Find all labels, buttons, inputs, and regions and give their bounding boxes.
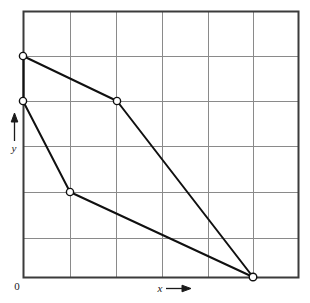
data-point-marker — [249, 273, 257, 281]
data-point-marker — [113, 97, 120, 104]
graph-figure: 0 y x — [0, 0, 310, 303]
data-point-marker — [19, 52, 26, 59]
y-axis-label: y — [11, 142, 17, 154]
data-point-marker — [66, 188, 73, 195]
data-point-marker — [19, 97, 26, 104]
x-axis-label: x — [157, 282, 163, 294]
origin-label: 0 — [14, 280, 20, 292]
plot-svg: 0 y x — [0, 0, 310, 303]
